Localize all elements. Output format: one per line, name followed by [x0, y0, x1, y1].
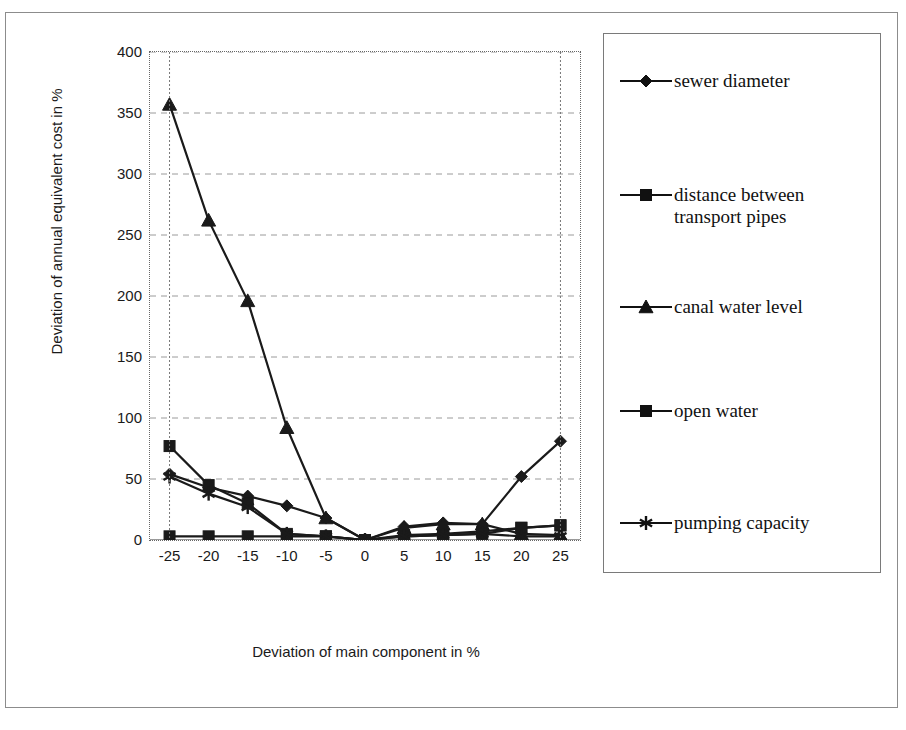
series-sewer-diameter [164, 435, 567, 540]
y-tick-label: 100 [100, 409, 142, 426]
series-line [170, 446, 561, 540]
legend-item-label: pumping capacity [674, 512, 810, 534]
y-tick-label: 400 [100, 43, 142, 60]
legend-marker-square-icon [618, 401, 674, 421]
legend-item[interactable]: distance between transport pipes [618, 184, 874, 228]
marker-square [203, 531, 214, 540]
chart-figure: Deviation of annual equivalent cost in %… [5, 12, 898, 708]
marker-square [641, 406, 652, 417]
legend-item[interactable]: open water [618, 400, 874, 422]
legend-item-label: open water [674, 400, 758, 422]
y-axis-tick-labels: 050100150200250300350400 [94, 51, 142, 539]
legend-marker-square-icon [618, 185, 674, 205]
legend-item-label: canal water level [674, 296, 803, 318]
plot-area [149, 51, 581, 541]
y-tick-label: 50 [100, 470, 142, 487]
legend-item-label: distance between transport pipes [674, 184, 804, 228]
y-tick-label: 0 [100, 531, 142, 548]
y-tick-label: 350 [100, 104, 142, 121]
x-axis-tick-labels: -25-20-15-10-50510152025 [150, 547, 580, 571]
series-line [170, 441, 561, 540]
y-tick-label: 250 [100, 226, 142, 243]
marker-triangle [280, 421, 294, 434]
legend-item-label: sewer diameter [674, 70, 790, 92]
x-axis-title: Deviation of main component in % [146, 643, 586, 660]
chart-legend: sewer diameterdistance between transport… [603, 33, 881, 573]
legend-item[interactable]: pumping capacity [618, 512, 874, 534]
legend-marker-diamond-icon [618, 71, 674, 91]
marker-square [242, 531, 253, 540]
y-tick-label: 300 [100, 165, 142, 182]
legend-item[interactable]: canal water level [618, 296, 874, 318]
y-tick-label: 200 [100, 287, 142, 304]
legend-marker-triangle-icon [618, 297, 674, 317]
legend-marker-asterisk-icon [618, 513, 674, 533]
marker-diamond [281, 500, 293, 512]
series-canal-water-level [163, 97, 568, 540]
x-tick-label: 25 [535, 547, 585, 564]
marker-square [641, 190, 652, 201]
marker-diamond [640, 75, 652, 87]
y-tick-label: 150 [100, 348, 142, 365]
y-axis-title: Deviation of annual equivalent cost in % [48, 12, 65, 432]
legend-item[interactable]: sewer diameter [618, 70, 874, 92]
series-line [170, 104, 561, 540]
chart-canvas [150, 52, 580, 540]
marker-triangle [202, 213, 216, 226]
